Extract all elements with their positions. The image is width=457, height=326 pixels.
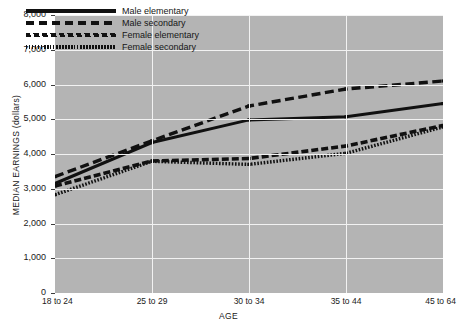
y-axis-tick-mark (51, 224, 55, 225)
legend-item: Male elementary (26, 5, 266, 17)
y-axis-tick-mark (51, 119, 55, 120)
y-axis-tick-mark (51, 85, 55, 86)
legend-item: Male secondary (26, 17, 266, 29)
y-axis-title: MEDIAN EARNINGS (dollars) (11, 55, 21, 255)
x-axis-title: AGE (0, 311, 457, 321)
legend-item: Female elementary (26, 29, 266, 41)
legend-swatch-dashed (26, 21, 116, 25)
y-axis-tick-label: 2,000 (0, 219, 46, 228)
legend-item: Female secondary (26, 41, 266, 53)
y-axis-tick-mark (51, 293, 55, 294)
legend-label: Male elementary (122, 6, 189, 16)
x-axis-tick-label: 35 to 44 (331, 296, 362, 306)
y-axis-tick-label: 5,000 (0, 114, 46, 123)
y-axis-tick-mark (51, 154, 55, 155)
legend-swatch-slanted-dash (26, 33, 116, 38)
y-axis-tick-label: 6,000 (0, 80, 46, 89)
legend-swatch-solid (26, 9, 116, 13)
x-axis-tick-label: 30 to 34 (234, 296, 265, 306)
x-axis-tick-label: 18 to 24 (42, 296, 73, 306)
y-axis-tick-label: 4,000 (0, 149, 46, 158)
y-axis-tick-label: 1,000 (0, 253, 46, 262)
legend-label: Male secondary (122, 18, 186, 28)
y-axis-tick-label: 3,000 (0, 184, 46, 193)
legend-label: Female elementary (122, 30, 199, 40)
x-axis-tick-label: 25 to 29 (137, 296, 168, 306)
chart-figure: 01,0002,0003,0004,0005,0006,0007,0008,00… (0, 0, 457, 326)
y-axis-tick-mark (51, 189, 55, 190)
legend-label: Female secondary (122, 42, 196, 52)
y-axis-tick-mark (51, 258, 55, 259)
x-axis-tick-label: 45 to 64 (425, 296, 456, 306)
legend-swatch-dotted (26, 45, 116, 49)
chart-legend: Male elementaryMale secondaryFemale elem… (26, 5, 266, 53)
y-axis-tick-label: 0 (0, 288, 46, 297)
